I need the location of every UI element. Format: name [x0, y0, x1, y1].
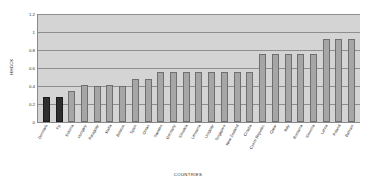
bar[interactable]	[106, 85, 113, 122]
x-axis-title: COUNTRIES	[0, 172, 376, 177]
bar-slot	[244, 14, 257, 122]
bar[interactable]	[285, 54, 292, 122]
y-axis-tick-label: 0.2	[29, 102, 35, 107]
bar[interactable]	[170, 72, 177, 122]
x-axis-tick-label: Lithuania	[191, 124, 202, 140]
bar-slot	[142, 14, 155, 122]
x-axis-tick-label: Paraguay	[88, 124, 99, 141]
bar[interactable]	[246, 72, 253, 122]
x-axis-tick-label: Qatar	[270, 124, 278, 134]
bar[interactable]	[56, 97, 63, 122]
bar[interactable]	[68, 91, 75, 122]
bar-slot	[269, 14, 282, 122]
x-axis-tick-label: Denmark	[38, 124, 49, 140]
bar-chart: HHDCK 1.210.80.60.40.20 DenmarkFijiEston…	[0, 0, 376, 186]
x-label-slot: Bahrain	[344, 124, 357, 170]
bar[interactable]	[208, 72, 215, 122]
x-axis-tick-label: Poland	[332, 124, 341, 137]
bar-slot	[231, 14, 244, 122]
bar-slot	[40, 14, 53, 122]
bar-slot	[320, 14, 333, 122]
bar-slot	[129, 14, 142, 122]
x-axis-tick-label: Italy	[284, 124, 291, 132]
bar-slot	[345, 14, 358, 122]
bar-slot	[91, 14, 104, 122]
bar-slot	[78, 14, 91, 122]
bar[interactable]	[323, 39, 330, 122]
bar-slot	[53, 14, 66, 122]
x-axis-tick-labels: DenmarkFijiEstoniaHungaryParaguayMaltaBe…	[37, 124, 359, 170]
x-label-slot: Malta	[103, 124, 116, 170]
x-label-slot: Spain	[128, 124, 141, 170]
y-axis-tick-label: 0.8	[29, 48, 35, 53]
bar[interactable]	[183, 72, 190, 122]
bar[interactable]	[43, 97, 50, 122]
bar[interactable]	[157, 72, 164, 122]
x-axis-tick-label: Bahrain	[344, 124, 354, 138]
bar-slot	[154, 14, 167, 122]
bar[interactable]	[221, 72, 228, 122]
x-label-slot: Lithuania	[192, 124, 205, 170]
x-label-slot: New Zealand	[230, 124, 243, 170]
y-axis-tick-label: 1	[33, 30, 35, 35]
bar-slot	[167, 14, 180, 122]
bar[interactable]	[119, 86, 126, 122]
bar[interactable]	[195, 72, 202, 122]
x-label-slot: Estonia	[64, 124, 77, 170]
x-axis-tick-label: Slovakia	[178, 124, 188, 139]
x-axis-tick-label: Latvia	[320, 124, 328, 135]
x-label-slot: Hungary	[77, 124, 90, 170]
plot-area	[37, 14, 360, 123]
x-label-slot: Slovakia	[179, 124, 192, 170]
bar[interactable]	[335, 39, 342, 122]
x-axis-tick-label: Singapore	[215, 124, 227, 142]
x-axis-tick-label: Belarus	[115, 124, 125, 137]
x-axis-tick-label: Sweden	[153, 124, 163, 138]
bar[interactable]	[310, 54, 317, 122]
bar-slot	[104, 14, 117, 122]
x-axis-tick-label: Spain	[130, 124, 138, 135]
bar-slot	[180, 14, 193, 122]
x-label-slot: Slovenia	[306, 124, 319, 170]
x-label-slot: Fiji	[52, 124, 65, 170]
y-axis-tick-labels: 1.210.80.60.40.20	[22, 14, 36, 122]
x-label-slot: Denmark	[39, 124, 52, 170]
x-label-slot: Belarus	[115, 124, 128, 170]
x-axis-tick-label: Slovenia	[305, 124, 315, 139]
x-axis-tick-label: Croatia	[243, 124, 252, 137]
y-axis-tick-label: 0.4	[29, 84, 35, 89]
x-label-slot: Uruguay	[204, 124, 217, 170]
bar-slot	[307, 14, 320, 122]
y-axis-tick-label: 0.6	[29, 66, 35, 71]
x-label-slot: Oman	[141, 124, 154, 170]
bar-slot	[65, 14, 78, 122]
x-label-slot: Latvia	[319, 124, 332, 170]
bar[interactable]	[348, 39, 355, 122]
x-axis-tick-label: Romania	[292, 124, 303, 140]
x-axis-tick-label: Germany	[165, 124, 176, 140]
bar[interactable]	[259, 54, 266, 122]
x-axis-tick-label: Oman	[142, 124, 150, 135]
x-label-slot: Paraguay	[90, 124, 103, 170]
y-axis-title: HHDCK	[9, 47, 14, 87]
bar-slot	[333, 14, 346, 122]
bar[interactable]	[81, 85, 88, 122]
bar-slot	[205, 14, 218, 122]
bar[interactable]	[94, 86, 101, 122]
x-label-slot: Singapore	[217, 124, 230, 170]
x-label-slot: Sweden	[153, 124, 166, 170]
x-axis-tick-label: Estonia	[65, 124, 75, 137]
x-label-slot: Germany	[166, 124, 179, 170]
bar-slot	[282, 14, 295, 122]
y-axis-tick-label: 1.2	[29, 12, 35, 17]
x-axis-tick-label: Malta	[104, 124, 112, 134]
x-axis-tick-label: Fiji	[56, 124, 62, 130]
x-label-slot: Qatar	[268, 124, 281, 170]
bar[interactable]	[297, 54, 304, 122]
bar-slot	[294, 14, 307, 122]
bar[interactable]	[145, 79, 152, 122]
bar[interactable]	[234, 72, 241, 122]
x-label-slot: Romania	[293, 124, 306, 170]
bar[interactable]	[272, 54, 279, 122]
bar[interactable]	[132, 79, 139, 122]
